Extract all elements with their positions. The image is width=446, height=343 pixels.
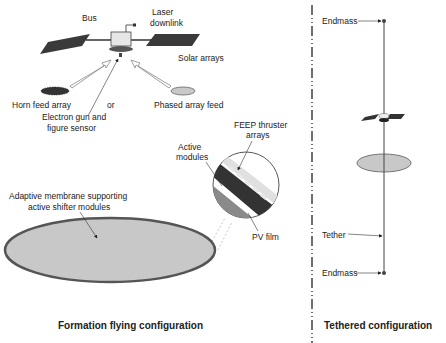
endmass-bottom (382, 271, 386, 275)
label-laser-2: downlink (150, 18, 184, 28)
label-bus: Bus (82, 13, 97, 23)
endmass-top (382, 19, 386, 23)
label-electron-gun-1: Electron gun and (42, 112, 107, 122)
label-feep-2: arrays (246, 130, 270, 140)
detail-magnifier (200, 152, 290, 240)
solar-panel-right (146, 34, 200, 46)
label-endmass-bottom: Endmass (322, 268, 357, 278)
title-tethered: Tethered configuration (324, 320, 432, 331)
label-membrane-2: active shifter modules (28, 202, 110, 212)
hollow-arrow-phased-to-bus (131, 60, 171, 88)
horn-feed-array-icon (41, 87, 69, 95)
label-or: or (107, 100, 115, 110)
bus-base (109, 46, 133, 52)
label-membrane-1: Adaptive membrane supporting (9, 191, 127, 201)
laser-downlink-icon (133, 24, 136, 27)
label-laser-1: Laser (152, 7, 173, 17)
label-pv-film: PV film (252, 232, 279, 242)
solar-panel-left (40, 34, 90, 54)
label-horn-feed: Horn feed array (12, 100, 72, 110)
label-tether: Tether (322, 230, 346, 240)
label-active-2: modules (176, 152, 208, 162)
bus-body (111, 32, 131, 46)
adaptive-membrane (5, 218, 215, 282)
label-phased-array: Phased array feed (154, 100, 224, 110)
diagram-canvas: Bus Laser downlink Solar arrays Horn fee… (0, 0, 446, 343)
label-endmass-top: Endmass (322, 16, 357, 26)
spacecraft-bus-group (40, 24, 200, 58)
tethered-spacecraft (361, 114, 405, 123)
label-solar-arrays: Solar arrays (178, 53, 224, 63)
label-active-1: Active (178, 142, 201, 152)
electron-gun-icon (119, 53, 122, 57)
label-electron-gun-2: figure sensor (47, 123, 96, 133)
phased-array-feed-icon (171, 87, 195, 95)
label-feep-1: FEEP thruster (234, 120, 287, 130)
title-formation: Formation flying configuration (58, 320, 203, 331)
